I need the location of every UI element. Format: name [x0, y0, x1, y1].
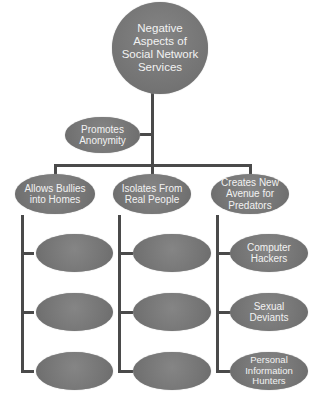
leaf-tick — [118, 252, 133, 255]
leaf-node-label: Sexual Deviants — [234, 301, 304, 323]
leaf-tick — [118, 370, 133, 373]
root-node: Negative Aspects of Social Network Servi… — [112, 2, 208, 94]
leaf-tick — [118, 311, 133, 314]
branch-node-label: Isolates From Real People — [117, 183, 187, 205]
column-1-connector — [21, 215, 24, 373]
leaf-tick — [216, 252, 231, 255]
leaf-node — [36, 293, 113, 331]
leaf-tick — [21, 311, 34, 314]
leaf-node-personal-information-hunters: Personal Information Hunters — [230, 352, 308, 390]
leaf-tick — [216, 370, 231, 373]
leaf-node-sexual-deviants: Sexual Deviants — [230, 293, 308, 331]
column-3-connector — [216, 215, 219, 373]
leaf-node — [133, 293, 211, 331]
root-node-label: Negative Aspects of Social Network Servi… — [116, 22, 204, 74]
leaf-node — [133, 352, 211, 390]
branch-node-bullies: Allows Bullies into Homes — [15, 174, 95, 214]
leaf-node-label: Personal Information Hunters — [234, 355, 304, 387]
branch-node-label: Creates New Avenue for Predators — [215, 177, 285, 211]
side-node-label: Promotes Anonymity — [69, 124, 136, 146]
trunk-connector — [151, 92, 154, 167]
side-node-connector — [140, 133, 152, 136]
branch-node-predators: Creates New Avenue for Predators — [211, 174, 289, 214]
leaf-node — [36, 234, 113, 272]
leaf-node-label: Computer Hackers — [234, 242, 304, 264]
leaf-node-computer-hackers: Computer Hackers — [230, 234, 308, 272]
column-2-connector — [118, 215, 121, 373]
leaf-tick — [21, 370, 34, 373]
leaf-node — [133, 234, 211, 272]
leaf-node — [36, 352, 113, 390]
branch-node-label: Allows Bullies into Homes — [19, 183, 91, 205]
leaf-tick — [21, 252, 34, 255]
leaf-tick — [216, 311, 231, 314]
branch-node-isolates: Isolates From Real People — [113, 174, 191, 214]
side-node-promotes-anonymity: Promotes Anonymity — [65, 117, 140, 153]
